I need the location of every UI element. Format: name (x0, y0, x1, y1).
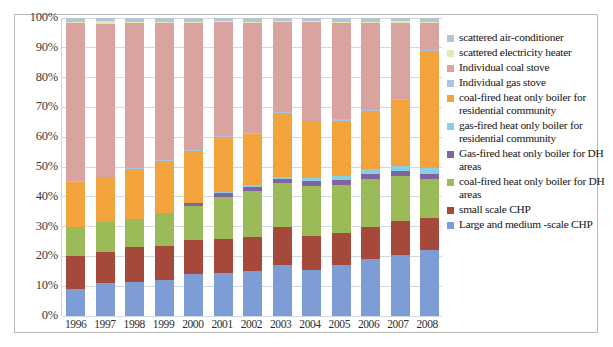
x-axis-tick-label: 2004 (295, 318, 324, 330)
bar-segment (420, 218, 439, 251)
legend-swatch-icon (447, 35, 454, 42)
bar-segment (273, 265, 292, 316)
plot-area (61, 18, 442, 316)
y-axis-tick-label: 0% (42, 308, 58, 323)
bar-segment (391, 176, 410, 221)
legend-item[interactable]: coal-fired heat only boiler for resident… (447, 91, 613, 117)
legend-item[interactable]: small scale CHP (447, 203, 613, 216)
legend-item[interactable]: scattered air-conditioner (447, 31, 613, 44)
stacked-bar (361, 18, 380, 316)
stacked-bar (302, 18, 321, 316)
bar-segment (302, 121, 321, 178)
x-axis-tick-label: 2007 (383, 318, 412, 330)
bar-segment (214, 197, 233, 239)
bar-segment (155, 161, 174, 213)
bar-segment (96, 252, 115, 283)
bar-segment (96, 177, 115, 222)
y-axis-tick-label: 30% (36, 219, 58, 234)
bar-segment (243, 271, 262, 316)
bar-segment (361, 23, 380, 109)
bar-segment (273, 183, 292, 226)
legend-item[interactable]: Large and medium -scale CHP (447, 218, 613, 231)
stacked-bar (273, 18, 292, 316)
bar-segment (155, 23, 174, 161)
bar-segment (420, 51, 439, 167)
bar-segment (420, 23, 439, 50)
y-axis-tick-label: 100% (30, 10, 58, 25)
x-axis-tick-label: 2005 (325, 318, 354, 330)
bar-segment (391, 100, 410, 166)
bar-segment (66, 256, 85, 289)
bar-segment (243, 23, 262, 134)
x-axis-tick-label: 2000 (178, 318, 207, 330)
legend-item[interactable]: Gas-fired heat only boiler for DH areas (447, 147, 613, 173)
bar-segment (420, 179, 439, 218)
x-axis-labels: 1996199719981999200020012002200320042005… (61, 318, 442, 330)
bar-segment (214, 273, 233, 316)
bar-segment (66, 227, 85, 257)
bar-segment (302, 270, 321, 316)
legend-label: Individual gas stove (459, 76, 546, 89)
stacked-bar (125, 18, 144, 316)
y-axis-tick-label: 40% (36, 189, 58, 204)
x-axis-tick-label: 2006 (354, 318, 383, 330)
bar-segment (332, 185, 351, 233)
bar-segment (214, 137, 233, 192)
bar-segment (243, 191, 262, 237)
bar-segment (361, 179, 380, 227)
stacked-bar (214, 18, 233, 316)
bar-segment (184, 23, 203, 150)
bar-segment (332, 23, 351, 119)
bar-segment (361, 227, 380, 260)
stacked-bar (243, 18, 262, 316)
legend-item[interactable]: scattered electricity heater (447, 46, 613, 59)
bar-segment (332, 121, 351, 176)
bar-segment (302, 186, 321, 235)
legend-swatch-icon (447, 65, 454, 72)
legend-swatch-icon (447, 179, 454, 186)
y-axis-tick-label: 60% (36, 129, 58, 144)
legend-label: scattered electricity heater (459, 46, 572, 59)
bar-segment (332, 265, 351, 316)
bar-segment (243, 134, 262, 185)
legend-label: coal-fired heat only boiler for DH areas (459, 175, 613, 201)
x-axis-tick-label: 2002 (237, 318, 266, 330)
legend-swatch-icon (447, 222, 454, 229)
bar-segment (66, 23, 85, 182)
bar-segment (96, 222, 115, 252)
stacked-bar (391, 18, 410, 316)
bar-segment (125, 282, 144, 316)
legend-swatch-icon (447, 151, 454, 158)
legend-item[interactable]: coal-fired heat only boiler for DH areas (447, 175, 613, 201)
legend-item[interactable]: Individual gas stove (447, 76, 613, 89)
y-axis-tick-label: 10% (36, 278, 58, 293)
legend-item[interactable]: Individual coal stove (447, 61, 613, 74)
stacked-bar (96, 18, 115, 316)
bar-segment (302, 236, 321, 270)
legend-item[interactable]: gas-fired heat only boiler for residenti… (447, 119, 613, 145)
bar-segment (96, 283, 115, 316)
stacked-bar (332, 18, 351, 316)
bar-segment (125, 169, 144, 220)
bar-segment (273, 113, 292, 177)
bar-group (62, 18, 442, 316)
bar-segment (96, 24, 115, 177)
bar-segment (214, 22, 233, 136)
plot-wrapper: 0%10%20%30%40%50%60%70%80%90%100% (61, 18, 442, 316)
bar-segment (155, 246, 174, 280)
x-axis-tick-label: 2003 (266, 318, 295, 330)
bar-segment (155, 280, 174, 316)
bar-segment (125, 23, 144, 168)
bar-segment (214, 239, 233, 273)
stacked-bar (66, 18, 85, 316)
bar-segment (184, 274, 203, 316)
x-axis-tick-label: 2008 (413, 318, 442, 330)
y-axis-tick-label: 80% (36, 70, 58, 85)
legend-label: small scale CHP (459, 203, 531, 216)
y-axis-tick-label: 50% (36, 159, 58, 174)
bar-segment (420, 250, 439, 316)
bar-segment (125, 219, 144, 247)
bar-segment (243, 237, 262, 271)
stacked-bar (155, 18, 174, 316)
legend-swatch-icon (447, 80, 454, 87)
